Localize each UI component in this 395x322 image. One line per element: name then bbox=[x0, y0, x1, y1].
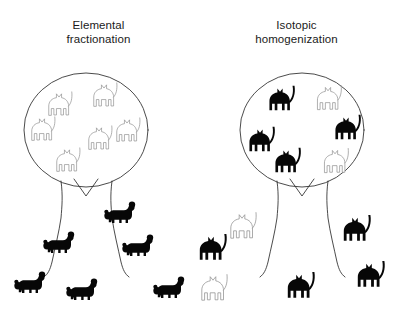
cat-filled bbox=[275, 148, 300, 172]
poodle-filled bbox=[14, 271, 45, 293]
panel-elemental-fractionation: Elemental fractionation bbox=[0, 0, 197, 322]
cat-filled bbox=[200, 234, 227, 260]
cat-outline bbox=[317, 85, 341, 109]
cat-filled bbox=[249, 127, 274, 151]
cat-outline bbox=[202, 275, 227, 300]
cat-filled bbox=[344, 215, 371, 241]
panel-isotopic-homogenization: Isotopic homogenization bbox=[198, 0, 395, 322]
figure-root: Elemental fractionation bbox=[0, 0, 395, 322]
cat-filled bbox=[335, 115, 360, 139]
cat-filled bbox=[358, 261, 385, 287]
outside-cat-group-right bbox=[200, 213, 385, 300]
cat-outline bbox=[231, 213, 256, 238]
cat-filled bbox=[288, 272, 315, 298]
cat-outline bbox=[49, 92, 72, 115]
poodle-filled bbox=[153, 276, 184, 298]
canopy-cat-group-right bbox=[249, 85, 360, 172]
outside-poodle-group-left bbox=[14, 201, 184, 300]
tree-trunk-right bbox=[260, 179, 345, 277]
panel-left-scene bbox=[0, 0, 197, 322]
cat-outline bbox=[324, 148, 348, 172]
cat-outline bbox=[89, 126, 112, 149]
cat-filled bbox=[269, 86, 294, 110]
poodle-filled bbox=[104, 201, 135, 223]
poodle-filled bbox=[43, 231, 74, 253]
poodle-filled bbox=[122, 234, 153, 256]
panel-right-scene bbox=[198, 0, 395, 322]
tree-trunk-left bbox=[44, 179, 129, 277]
cat-outline bbox=[32, 117, 55, 140]
poodle-filled bbox=[66, 278, 97, 300]
cat-outline bbox=[117, 118, 140, 141]
canopy-cat-group-left bbox=[32, 83, 140, 171]
cat-outline bbox=[94, 83, 117, 106]
cat-outline bbox=[57, 148, 80, 171]
